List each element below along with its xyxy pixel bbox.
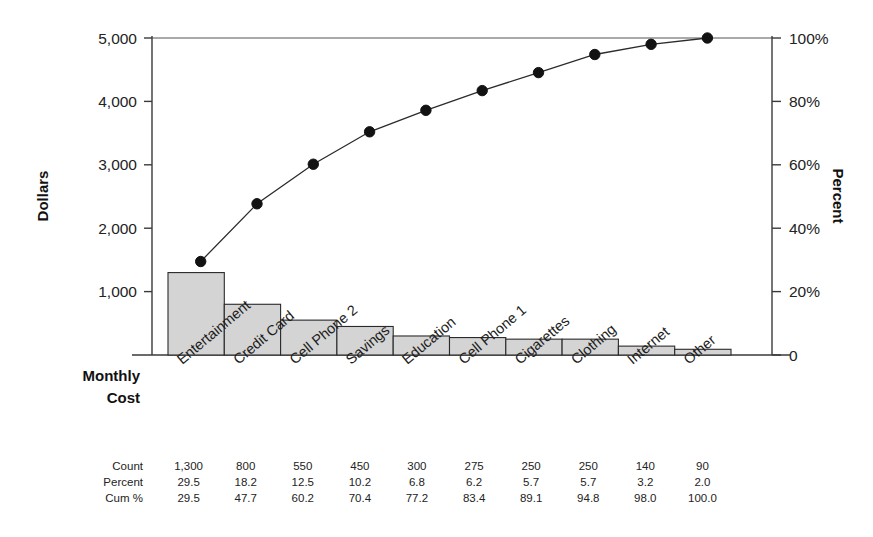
cumulative-marker — [646, 39, 656, 49]
table-row-label: Count — [112, 460, 143, 472]
left-axis-ticks: 5,0004,0003,0002,0001,000 — [98, 30, 152, 301]
table-cell: 70.4 — [349, 492, 372, 504]
cumulative-line — [201, 38, 708, 262]
table-cell: 140 — [636, 460, 655, 472]
table-cell: 90 — [696, 460, 709, 472]
table-cell: 2.0 — [694, 476, 710, 488]
right-tick-label: 20% — [789, 283, 820, 300]
cumulative-marker — [533, 67, 543, 77]
table-cell: 250 — [522, 460, 541, 472]
table-cell: 89.1 — [520, 492, 542, 504]
right-axis-ticks: 100%80%60%40%20%0 — [772, 30, 829, 364]
cumulative-marker — [421, 105, 431, 115]
table-cell: 29.5 — [177, 476, 199, 488]
table-cell: 77.2 — [406, 492, 428, 504]
data-table: Count1,30080055045030027525025014090Perc… — [103, 460, 716, 504]
cumulative-marker — [252, 199, 262, 209]
cumulative-marker — [196, 256, 206, 266]
table-cell: 450 — [350, 460, 369, 472]
cumulative-marker — [308, 159, 318, 169]
table-cell: 98.0 — [634, 492, 656, 504]
table-row-label: Percent — [103, 476, 143, 488]
table-row-label: Cum % — [105, 492, 143, 504]
table-cell: 250 — [579, 460, 598, 472]
x-axis-title-line1: Monthly — [83, 367, 141, 384]
left-tick-label: 5,000 — [98, 30, 137, 47]
category-label: Internet — [624, 323, 672, 367]
table-cell: 60.2 — [292, 492, 314, 504]
table-cell: 10.2 — [349, 476, 371, 488]
pareto-chart: 5,0004,0003,0002,0001,000 100%80%60%40%2… — [0, 0, 873, 537]
table-cell: 5.7 — [523, 476, 539, 488]
right-axis-title: Percent — [830, 168, 847, 223]
table-cell: 300 — [407, 460, 426, 472]
left-axis-title: Dollars — [34, 171, 51, 222]
table-cell: 29.5 — [177, 492, 199, 504]
table-cell: 550 — [293, 460, 312, 472]
table-cell: 100.0 — [688, 492, 717, 504]
cumulative-marker — [590, 49, 600, 59]
left-tick-label: 4,000 — [98, 93, 137, 110]
cumulative-marker — [477, 85, 487, 95]
x-axis-title-line2: Cost — [107, 389, 140, 406]
cumulative-line-group — [196, 33, 713, 267]
right-tick-label: 100% — [789, 30, 829, 47]
table-cell: 6.2 — [466, 476, 482, 488]
cumulative-marker — [364, 127, 374, 137]
table-cell: 1,300 — [174, 460, 203, 472]
table-cell: 47.7 — [235, 492, 257, 504]
table-cell: 3.2 — [637, 476, 653, 488]
table-cell: 18.2 — [235, 476, 257, 488]
table-cell: 275 — [465, 460, 484, 472]
table-cell: 94.8 — [577, 492, 599, 504]
left-tick-label: 3,000 — [98, 156, 137, 173]
cumulative-marker — [702, 33, 712, 43]
right-tick-label: 0 — [789, 347, 798, 364]
pareto-chart-canvas: 5,0004,0003,0002,0001,000 100%80%60%40%2… — [0, 0, 873, 537]
table-cell: 83.4 — [463, 492, 486, 504]
left-tick-label: 2,000 — [98, 220, 137, 237]
right-tick-label: 40% — [789, 220, 820, 237]
table-cell: 5.7 — [580, 476, 596, 488]
right-tick-label: 60% — [789, 156, 820, 173]
right-tick-label: 80% — [789, 93, 820, 110]
left-tick-label: 1,000 — [98, 283, 137, 300]
table-cell: 800 — [236, 460, 255, 472]
table-cell: 6.8 — [409, 476, 425, 488]
table-cell: 12.5 — [292, 476, 314, 488]
